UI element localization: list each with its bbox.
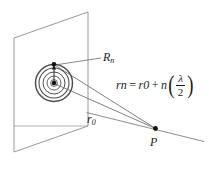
label-Rn-sub: n xyxy=(110,56,114,65)
optical-axis-line xyxy=(87,113,205,142)
figure-container: Rn r0 P rn = r0 + n ( λ 2 ) xyxy=(0,0,209,173)
point-P-dot xyxy=(153,126,158,131)
eq-paren-close: ) xyxy=(187,76,193,94)
label-r0: r0 xyxy=(87,113,96,127)
eq-plus: + xyxy=(149,78,161,93)
equation-rn: rn = r0 + n ( λ 2 ) xyxy=(116,73,194,98)
label-Rn: Rn xyxy=(103,51,114,65)
eq-denominator: 2 xyxy=(178,87,184,98)
center-dot xyxy=(52,81,57,86)
eq-paren-open: ( xyxy=(168,76,174,94)
label-P: P xyxy=(150,136,157,148)
label-r0-sub: 0 xyxy=(92,118,96,127)
eq-fraction: λ 2 xyxy=(176,73,186,98)
eq-numerator: λ xyxy=(178,73,183,84)
eq-coefficient: n xyxy=(161,78,167,93)
eq-equals: = xyxy=(127,78,139,93)
